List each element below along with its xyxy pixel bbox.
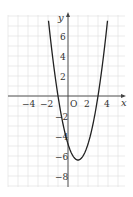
y-tick-neg6: −6 <box>55 152 69 162</box>
coordinate-plane: x y O −4 −2 2 4 6 4 2 −2 −4 −6 −8 <box>0 0 133 197</box>
y-tick-neg8: −8 <box>55 172 69 182</box>
x-axis-label: x <box>121 97 127 108</box>
y-axis-arrow-icon <box>66 12 70 17</box>
y-tick-4: 4 <box>60 52 66 62</box>
x-tick-4: 4 <box>104 99 110 109</box>
x-tick-neg2: −2 <box>40 99 53 109</box>
y-tick-6: 6 <box>60 32 66 42</box>
x-tick-2: 2 <box>84 99 90 109</box>
y-axis-label: y <box>57 12 64 23</box>
y-tick-2: 2 <box>60 72 66 82</box>
origin-label: O <box>70 99 77 109</box>
x-tick-neg4: −4 <box>22 99 36 109</box>
